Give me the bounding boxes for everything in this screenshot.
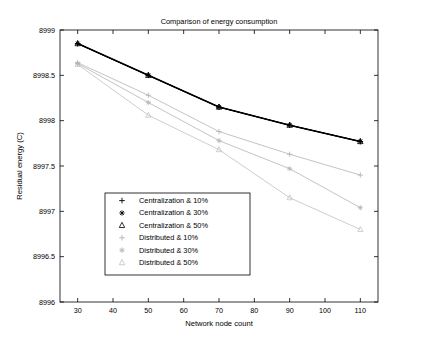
x-tick-label: 50: [144, 306, 152, 315]
series-2: [75, 41, 363, 144]
marker-star-4-1: [146, 100, 151, 105]
marker-star-1-0: [75, 41, 80, 46]
series-3: [75, 60, 363, 178]
marker-star-1-4: [358, 139, 363, 144]
series-line-4: [78, 64, 361, 208]
chart-legend: Centralization & 10%Centralization & 30%…: [105, 193, 250, 275]
y-tick-label: 8996: [39, 298, 55, 307]
marker-star-4-3: [287, 166, 292, 171]
y-tick-label: 8996.5: [33, 252, 55, 261]
x-tick-label: 70: [215, 306, 223, 315]
x-axis: 30405060708090100110Network node count: [74, 30, 366, 328]
marker-star-1-2: [216, 104, 221, 109]
y-tick-label: 8998.5: [33, 71, 55, 80]
series-4: [75, 61, 363, 210]
x-tick-label: 90: [286, 306, 294, 315]
marker-star-legend-4: [119, 248, 124, 253]
x-tick-label: 60: [180, 306, 188, 315]
x-tick-label: 40: [109, 306, 117, 315]
legend-label-5: Distributed & 50%: [139, 258, 199, 267]
energy-consumption-line-chart: 30405060708090100110Network node count89…: [0, 0, 427, 347]
chart-title: Comparison of energy consumption: [161, 17, 278, 26]
legend-label-3: Distributed & 10%: [139, 233, 199, 242]
series-line-2: [78, 44, 361, 142]
y-axis-label: Residual energy (C): [15, 132, 24, 200]
marker-plus-3-1: [146, 93, 151, 98]
x-tick-label: 110: [355, 306, 366, 315]
x-tick-label: 100: [319, 306, 331, 315]
x-axis-label: Network node count: [185, 319, 253, 328]
marker-plus-3-3: [287, 152, 292, 157]
chart-figure: 30405060708090100110Network node count89…: [0, 0, 427, 347]
marker-star-4-2: [216, 138, 221, 143]
marker-star-legend-1: [119, 210, 124, 215]
series-line-1: [78, 44, 361, 142]
legend-label-4: Distributed & 30%: [139, 246, 199, 255]
series-line-0: [78, 44, 361, 142]
series-line-3: [78, 63, 361, 175]
marker-star-1-3: [287, 123, 292, 128]
marker-plus-3-4: [358, 172, 363, 177]
marker-star-4-4: [358, 205, 363, 210]
x-tick-label: 30: [74, 306, 82, 315]
marker-plus-3-2: [216, 129, 221, 134]
y-tick-label: 8997.5: [33, 162, 55, 171]
y-tick-label: 8999: [39, 26, 55, 35]
marker-star-1-1: [146, 73, 151, 78]
y-tick-label: 8997: [39, 207, 55, 216]
x-tick-label: 80: [250, 306, 258, 315]
series-0: [75, 41, 363, 145]
series-1: [75, 41, 363, 144]
y-tick-label: 8998: [39, 116, 55, 125]
legend-label-1: Centralization & 30%: [139, 208, 208, 217]
legend-label-2: Centralization & 50%: [139, 221, 208, 230]
legend-label-0: Centralization & 10%: [139, 196, 208, 205]
